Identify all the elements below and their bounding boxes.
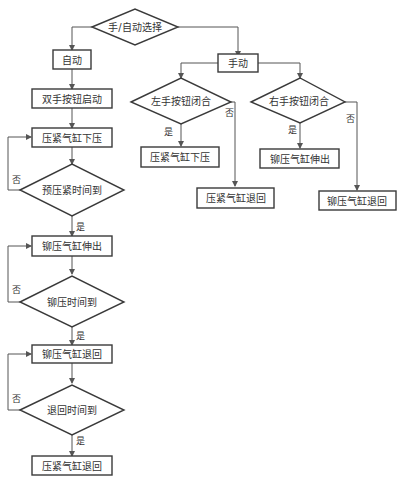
process-rivet-extend-auto-label: 铆压气缸伸出 xyxy=(42,240,102,252)
label-yes-retract: 是 xyxy=(76,436,85,446)
process-rivet-retract-manual-label: 铆压气缸退回 xyxy=(327,195,387,207)
process-clamp-down-manual: 压紧气缸下压 xyxy=(141,147,219,167)
process-clamp-down-manual-label: 压紧气缸下压 xyxy=(150,151,210,163)
label-yes-preclamp: 是 xyxy=(76,222,85,232)
flowchart: 手/自动选择 自动 双手按钮启动 压紧气缸下压 预压紧时间到 否 是 铆压气缸伸… xyxy=(0,0,404,481)
label-yes-rivet: 是 xyxy=(76,331,85,341)
decision-preclamp-time: 预压紧时间到 xyxy=(20,164,124,216)
process-manual: 手动 xyxy=(218,54,258,72)
process-clamp-down-auto: 压紧气缸下压 xyxy=(32,128,112,147)
label-no-right: 否 xyxy=(346,114,355,124)
decision-left-button: 左手按钮闭合 xyxy=(131,78,231,124)
process-rivet-extend-manual: 铆压气缸伸出 xyxy=(260,149,339,168)
decision-left-button-label: 左手按钮闭合 xyxy=(151,95,211,107)
process-rivet-retract-auto: 铆压气缸退回 xyxy=(32,345,112,363)
process-rivet-retract-auto-label: 铆压气缸退回 xyxy=(42,348,102,360)
process-rivet-extend-auto: 铆压气缸伸出 xyxy=(32,236,112,256)
process-clamp-retract-auto: 压紧气缸退回 xyxy=(32,456,112,475)
edge-mode-auto xyxy=(72,27,92,50)
process-rivet-retract-manual: 铆压气缸退回 xyxy=(319,191,396,210)
label-no-left: 否 xyxy=(225,108,234,118)
decision-mode-select-label: 手/自动选择 xyxy=(108,21,161,33)
process-clamp-down-auto-label: 压紧气缸下压 xyxy=(42,132,102,144)
process-clamp-retract-manual-label: 压紧气缸退回 xyxy=(206,192,266,204)
label-no-retract: 否 xyxy=(12,394,21,404)
decision-right-button: 右手按钮闭合 xyxy=(251,78,345,123)
edge-manual-left xyxy=(181,63,218,78)
process-clamp-retract-auto-label: 压紧气缸退回 xyxy=(42,460,102,472)
label-yes-left: 是 xyxy=(164,127,173,137)
label-no-rivet: 否 xyxy=(12,285,21,295)
label-no-preclamp: 否 xyxy=(12,175,21,185)
process-auto: 自动 xyxy=(53,50,91,69)
decision-right-button-label: 右手按钮闭合 xyxy=(269,95,329,107)
decision-retract-time-label: 退回时间到 xyxy=(47,404,97,416)
process-manual-label: 手动 xyxy=(228,57,248,69)
decision-rivet-time: 铆压时间到 xyxy=(20,276,124,327)
edge-mode-manual xyxy=(178,27,238,56)
process-two-hand-start: 双手按钮启动 xyxy=(32,89,112,108)
decision-mode-select: 手/自动选择 xyxy=(92,9,178,45)
decision-preclamp-time-label: 预压紧时间到 xyxy=(42,184,102,196)
process-clamp-retract-manual: 压紧气缸退回 xyxy=(197,188,274,208)
decision-retract-time: 退回时间到 xyxy=(20,385,124,435)
process-two-hand-start-label: 双手按钮启动 xyxy=(42,93,102,105)
process-auto-label: 自动 xyxy=(62,54,82,66)
process-rivet-extend-manual-label: 铆压气缸伸出 xyxy=(270,153,330,165)
decision-rivet-time-label: 铆压时间到 xyxy=(47,296,97,308)
label-yes-right: 是 xyxy=(288,125,297,135)
edge-manual-right xyxy=(258,63,300,78)
